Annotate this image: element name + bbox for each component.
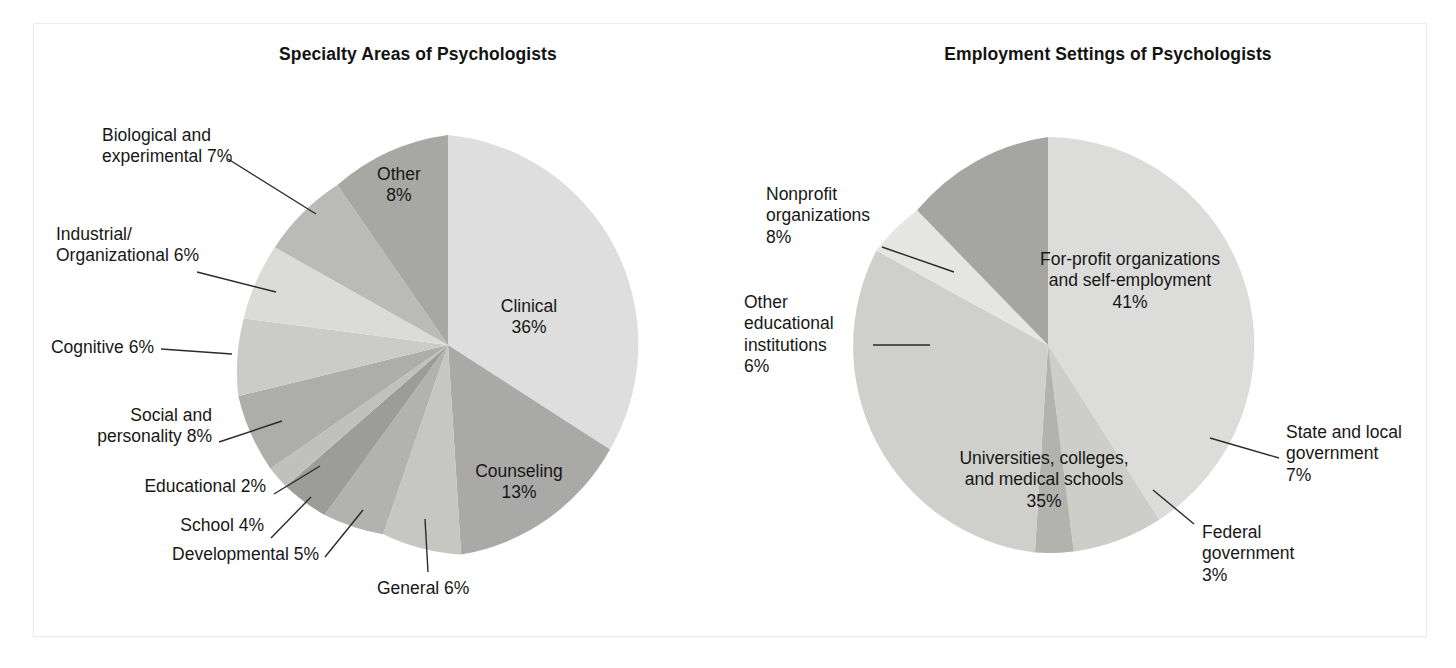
label-biological: Biological and experimental 7%	[102, 125, 292, 168]
label-state-local: State and local government 7%	[1286, 422, 1446, 486]
label-forprofit: For-profit organizations and self-employ…	[990, 249, 1270, 313]
label-counseling: Counseling 13%	[449, 461, 589, 504]
label-general: General 6%	[377, 578, 527, 599]
label-industrial: Industrial/ Organizational 6%	[56, 224, 236, 267]
leader-cognitive	[161, 349, 232, 354]
leader-school	[271, 497, 311, 538]
pie-specialty: Other 8% Clinical 36% Counseling 13% Gen…	[34, 24, 734, 636]
label-school: School 4%	[64, 515, 264, 536]
label-educational: Educational 2%	[44, 476, 266, 497]
chart-panel-employment: Employment Settings of Psychologists	[734, 24, 1426, 636]
label-cognitive: Cognitive 6%	[34, 337, 154, 358]
label-other: Other 8%	[344, 164, 454, 207]
figure-card: Specialty Areas of Psychologists	[34, 24, 1426, 636]
label-social: Social and personality 8%	[44, 405, 212, 448]
label-nonprofit: Nonprofit organizations 8%	[766, 184, 926, 248]
pie-employment: For-profit organizations and self-employ…	[734, 24, 1426, 636]
label-clinical: Clinical 36%	[464, 296, 594, 339]
label-developmental: Developmental 5%	[64, 544, 319, 565]
label-other-educational: Other educational institutions 6%	[744, 292, 884, 377]
label-universities: Universities, colleges, and medical scho…	[899, 448, 1189, 512]
screenshot-root: Specialty Areas of Psychologists	[0, 0, 1456, 668]
label-federal: Federal government 3%	[1202, 522, 1362, 586]
chart-panel-specialty: Specialty Areas of Psychologists	[34, 24, 734, 636]
